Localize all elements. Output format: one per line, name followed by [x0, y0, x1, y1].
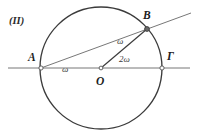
- figure-canvas: [0, 0, 198, 138]
- angle-label-at-b: ω: [117, 37, 123, 46]
- point-label-o: O: [96, 76, 104, 88]
- point-label-gamma: Γ: [167, 51, 174, 63]
- angle-label-at-a: ω: [62, 65, 68, 74]
- geometry-figure: (II) A B Γ O ω ω 2ω: [0, 0, 198, 138]
- point-label-a: A: [28, 52, 36, 64]
- angle-label-at-o: 2ω: [119, 55, 130, 64]
- figure-caption: (II): [9, 16, 24, 27]
- point-marker-Gamma: [160, 66, 164, 70]
- point-label-b: B: [143, 10, 151, 22]
- point-marker-B: [145, 27, 150, 32]
- point-marker-O: [99, 66, 103, 70]
- point-marker-A: [39, 66, 43, 70]
